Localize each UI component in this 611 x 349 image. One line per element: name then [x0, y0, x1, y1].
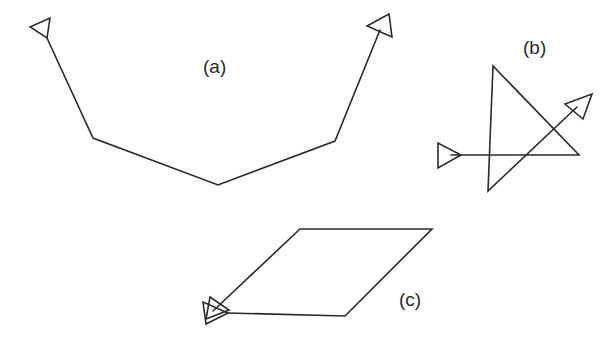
- path-b: [451, 66, 579, 191]
- arrowhead-end-icon: [367, 14, 392, 37]
- panel-a: [30, 14, 392, 185]
- panel-a-label: (a): [203, 57, 226, 76]
- arrowhead-start-icon: [30, 18, 50, 38]
- panel-c: [203, 229, 432, 324]
- panel-b: [438, 66, 592, 191]
- panel-c-label: (c): [399, 290, 421, 309]
- panel-b-label: (b): [523, 38, 546, 57]
- path-a: [47, 30, 380, 185]
- diagram-canvas: [0, 0, 611, 349]
